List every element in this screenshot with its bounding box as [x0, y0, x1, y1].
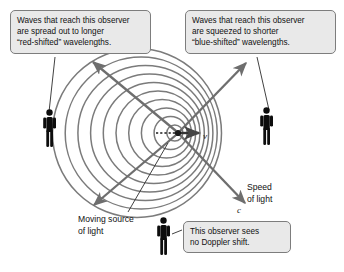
callout-no-shift-line-2: no Doppler shift.	[190, 237, 285, 248]
label-speed-of-light: Speed of light	[247, 182, 272, 205]
label-moving-source-line-2: of light	[78, 226, 134, 238]
callout-blue-shift-line-1: Waves that reach this observer	[192, 15, 330, 26]
label-moving-source-of-light: Moving source of light	[78, 214, 134, 237]
source-velocity-group	[156, 130, 199, 136]
callout-blue-shift-line-3: “blue-shifted” wavelengths.	[192, 37, 330, 48]
callout-red-shift-line-2: are spread out to longer	[17, 26, 145, 37]
callout-red-shift: Waves that reach this observer are sprea…	[10, 10, 151, 54]
leader-moving-source	[128, 143, 168, 212]
observer-bottom	[157, 217, 170, 255]
light-source-dot	[175, 130, 181, 136]
leader-red-shift	[49, 57, 55, 112]
callout-no-shift-line-1: This observer sees	[190, 226, 285, 237]
callout-blue-shift-line-2: are squeezed to shorter	[192, 26, 330, 37]
callout-blue-shift: Waves that reach this observer are squee…	[185, 10, 336, 54]
label-speed-of-light-line-1: Speed	[247, 182, 272, 194]
leader-no-shift	[172, 230, 182, 234]
doppler-effect-figure: Waves that reach this observer are sprea…	[0, 0, 344, 272]
callout-no-doppler-shift: This observer sees no Doppler shift.	[183, 221, 291, 253]
observer-right	[260, 107, 273, 145]
label-speed-of-light-line-2: of light	[247, 194, 272, 206]
ray-lower-left	[94, 135, 176, 205]
symbol-velocity: v	[203, 131, 207, 141]
label-moving-source-line-1: Moving source	[78, 214, 134, 226]
symbol-speed-of-light: c	[237, 205, 241, 215]
callout-red-shift-line-3: “red-shifted” wavelengths.	[17, 37, 145, 48]
callout-red-shift-line-1: Waves that reach this observer	[17, 15, 145, 26]
leader-blue-shift	[257, 57, 269, 110]
